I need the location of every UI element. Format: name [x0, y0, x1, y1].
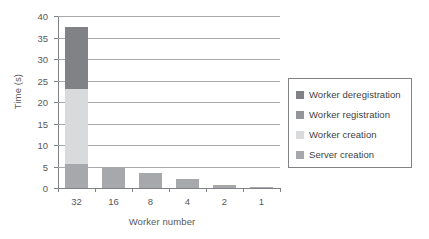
bar-group[interactable]	[102, 16, 125, 188]
x-axis-tick	[243, 188, 244, 192]
x-axis-tick	[132, 188, 133, 192]
gridline	[58, 38, 280, 39]
y-axis-tick	[54, 102, 58, 103]
x-axis-tick	[95, 188, 96, 192]
y-axis-tick-label: 10	[0, 140, 48, 151]
bar-group[interactable]	[65, 16, 88, 188]
x-axis-tick-label: 32	[71, 196, 82, 207]
chart-legend: Worker deregistrationWorker registration…	[288, 78, 412, 168]
bar-segment	[176, 179, 199, 188]
y-axis-title: Time (s)	[12, 57, 23, 127]
gridline	[58, 102, 280, 103]
plot-area	[58, 16, 280, 188]
bar-segment	[65, 89, 88, 164]
x-axis-tick-label: 16	[108, 196, 119, 207]
gridline	[58, 81, 280, 82]
bar-segment	[65, 27, 88, 89]
y-axis-tick	[54, 59, 58, 60]
legend-item[interactable]: Server creation	[296, 145, 411, 164]
legend-swatch-icon	[296, 151, 304, 159]
legend-item-label: Server creation	[309, 149, 374, 160]
y-axis-tick	[54, 145, 58, 146]
gridline	[58, 145, 280, 146]
gridline	[58, 16, 280, 17]
bar-segment	[250, 187, 273, 188]
legend-item-label: Worker deregistration	[309, 89, 401, 100]
legend-item[interactable]: Worker registration	[296, 105, 411, 124]
legend-item-label: Worker registration	[309, 109, 390, 120]
legend-item[interactable]: Worker deregistration	[296, 85, 411, 104]
y-axis-tick-label: 30	[0, 54, 48, 65]
y-axis-tick-label: 15	[0, 118, 48, 129]
legend-swatch-icon	[296, 131, 304, 139]
x-axis-tick	[280, 188, 281, 192]
y-axis-tick-label: 5	[0, 161, 48, 172]
bar-chart: Time (s) Worker number Worker deregistra…	[0, 0, 429, 239]
y-axis-tick	[54, 167, 58, 168]
bar-segment	[139, 173, 162, 188]
x-axis-tick	[169, 188, 170, 192]
y-axis-tick	[54, 124, 58, 125]
bar-segment	[213, 185, 236, 188]
y-axis-tick-label: 0	[0, 183, 48, 194]
x-axis-tick-label: 2	[222, 196, 227, 207]
bar-segment	[65, 164, 88, 188]
legend-swatch-icon	[296, 91, 304, 99]
gridline	[58, 124, 280, 125]
gridline	[58, 167, 280, 168]
legend-item[interactable]: Worker creation	[296, 125, 411, 144]
legend-item-label: Worker creation	[309, 129, 377, 140]
y-axis-tick	[54, 16, 58, 17]
x-axis-tick-label: 8	[148, 196, 153, 207]
x-axis-tick	[206, 188, 207, 192]
bar-group[interactable]	[250, 16, 273, 188]
gridline	[58, 59, 280, 60]
legend-swatch-icon	[296, 111, 304, 119]
bar-segment	[102, 167, 125, 189]
x-axis-tick	[58, 188, 59, 192]
y-axis-tick	[54, 38, 58, 39]
x-axis-title: Worker number	[42, 216, 282, 227]
bar-group[interactable]	[176, 16, 199, 188]
y-axis-tick-label: 25	[0, 75, 48, 86]
x-axis-tick-label: 4	[185, 196, 190, 207]
bar-group[interactable]	[139, 16, 162, 188]
bar-group[interactable]	[213, 16, 236, 188]
x-axis-tick-label: 1	[259, 196, 264, 207]
y-axis-tick-label: 40	[0, 11, 48, 22]
y-axis-tick	[54, 81, 58, 82]
y-axis-tick-label: 20	[0, 97, 48, 108]
y-axis-tick-label: 35	[0, 32, 48, 43]
